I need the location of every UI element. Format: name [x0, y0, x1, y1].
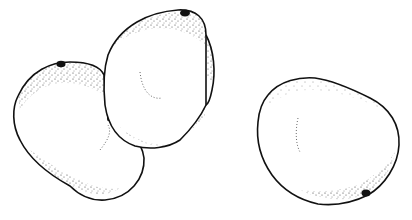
right-fruit-stem — [362, 190, 371, 197]
middle-fruit — [104, 10, 206, 149]
illustration: Three stippled fruits (mangoes) line dra… — [0, 0, 412, 220]
right-fruit — [258, 78, 400, 205]
left-fruit-stem — [57, 61, 66, 67]
middle-fruit-right-edge — [206, 35, 214, 105]
middle-fruit-stem — [180, 10, 190, 17]
fruit-drawing — [0, 0, 412, 220]
